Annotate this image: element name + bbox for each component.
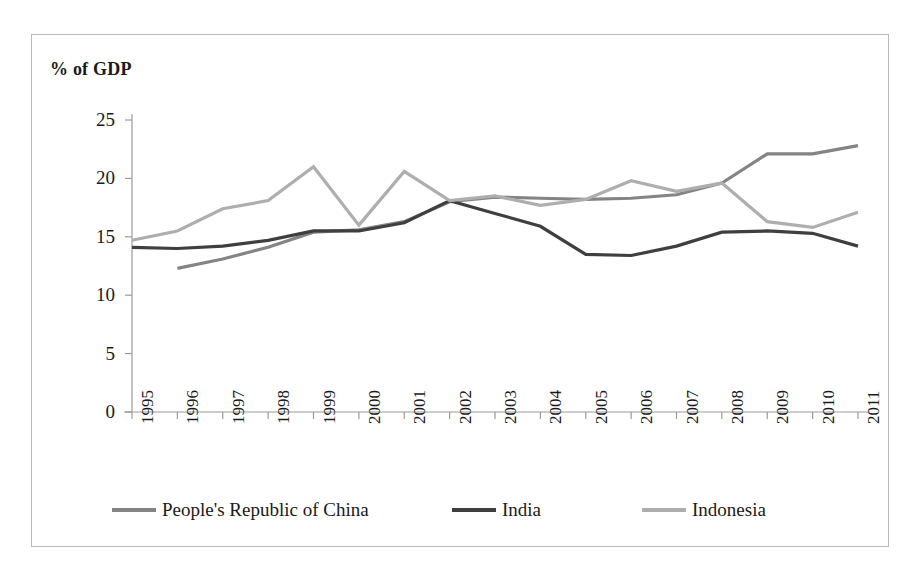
x-axis-tick-label: 2001 bbox=[411, 390, 428, 424]
x-axis-tick-label: 2007 bbox=[684, 390, 701, 424]
legend-label: Indonesia bbox=[692, 499, 766, 521]
y-axis-tick-label: 5 bbox=[75, 344, 115, 363]
legend-swatch-icon bbox=[112, 508, 156, 512]
x-axis-tick-label: 2011 bbox=[865, 391, 882, 424]
legend-label: India bbox=[502, 499, 541, 521]
chart-legend: People's Republic of ChinaIndiaIndonesia bbox=[32, 497, 890, 537]
chart-frame: % of GDP 2520151050 19951996199719981999… bbox=[31, 34, 889, 547]
x-axis-tick-label: 2010 bbox=[820, 390, 837, 424]
x-axis-tick-label: 2004 bbox=[547, 390, 564, 424]
y-axis-tick-label: 25 bbox=[75, 110, 115, 129]
legend-item: People's Republic of China bbox=[112, 497, 369, 523]
x-axis-tick-label: 2002 bbox=[457, 390, 474, 424]
x-axis-tick-label: 1995 bbox=[139, 390, 156, 424]
legend-item: India bbox=[452, 497, 541, 523]
legend-swatch-icon bbox=[642, 508, 686, 512]
x-axis-tick-label: 2005 bbox=[593, 390, 610, 424]
line-chart-svg bbox=[32, 35, 890, 548]
x-axis-tick-label: 2006 bbox=[638, 390, 655, 424]
x-axis-tick-label: 2008 bbox=[729, 390, 746, 424]
x-axis-tick-label: 1999 bbox=[321, 390, 338, 424]
legend-label: People's Republic of China bbox=[162, 499, 369, 521]
legend-swatch-icon bbox=[452, 508, 496, 512]
legend-item: Indonesia bbox=[642, 497, 766, 523]
y-axis-tick-label: 15 bbox=[75, 227, 115, 246]
x-axis-tick-label: 2009 bbox=[774, 390, 791, 424]
x-axis-tick-label: 2003 bbox=[502, 390, 519, 424]
x-axis-tick-label: 1998 bbox=[275, 390, 292, 424]
plot-area: 2520151050 19951996199719981999200020012… bbox=[32, 35, 890, 548]
y-axis-tick-label: 20 bbox=[75, 168, 115, 187]
x-axis-tick-label: 1996 bbox=[184, 390, 201, 424]
y-axis-tick-label: 10 bbox=[75, 285, 115, 304]
x-axis-tick-label: 2000 bbox=[366, 390, 383, 424]
y-axis-tick-label: 0 bbox=[75, 402, 115, 421]
x-axis-tick-label: 1997 bbox=[230, 390, 247, 424]
